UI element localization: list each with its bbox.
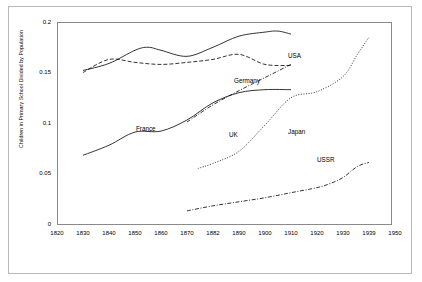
series-line-germany: [83, 54, 291, 72]
series-line-uk: [187, 64, 291, 122]
series-line-ussr: [187, 162, 369, 210]
chart-lines-layer: [0, 0, 422, 282]
chart-page: Children in Primary School Divided by Po…: [0, 0, 422, 282]
series-line-france: [83, 89, 291, 155]
series-line-usa: [83, 31, 291, 70]
